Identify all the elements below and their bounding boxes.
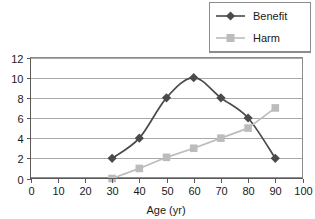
data-point-square-marker — [136, 165, 144, 173]
x-tick-label: 90 — [269, 185, 281, 197]
x-tick-label: 20 — [79, 185, 91, 197]
square-marker-icon — [227, 34, 235, 42]
data-point-square-marker — [190, 144, 198, 152]
x-tick-label: 10 — [52, 185, 64, 197]
y-tick-label: 2 — [17, 153, 23, 165]
x-tick-label: 70 — [215, 185, 227, 197]
x-tick-label: 60 — [188, 185, 200, 197]
chart-container: Benefit Harm 024681012 01020304050607080… — [0, 0, 315, 219]
y-tick-label: 8 — [17, 93, 23, 105]
y-tick-label: 6 — [17, 113, 23, 125]
legend-label-benefit: Benefit — [253, 10, 287, 22]
y-tick-label: 4 — [17, 133, 23, 145]
x-tick-label: 30 — [106, 185, 118, 197]
y-tick-label: 10 — [11, 73, 23, 85]
chart-legend: Benefit Harm — [210, 3, 311, 53]
x-tick-label: 40 — [133, 185, 145, 197]
x-axis-title: Age (yr) — [146, 204, 185, 216]
data-point-square-marker — [163, 154, 171, 162]
data-point-square-marker — [272, 104, 280, 112]
legend-label-harm: Harm — [253, 32, 280, 44]
y-tick-label: 0 — [17, 174, 23, 186]
x-tick-label: 80 — [242, 185, 254, 197]
x-tick-label: 100 — [294, 185, 312, 197]
data-point-square-marker — [244, 124, 252, 132]
x-tick-label: 0 — [28, 185, 34, 197]
y-tick-label: 12 — [11, 53, 23, 65]
line-chart: Benefit Harm 024681012 01020304050607080… — [0, 0, 315, 219]
data-point-square-marker — [217, 134, 225, 142]
x-tick-label: 50 — [161, 185, 173, 197]
